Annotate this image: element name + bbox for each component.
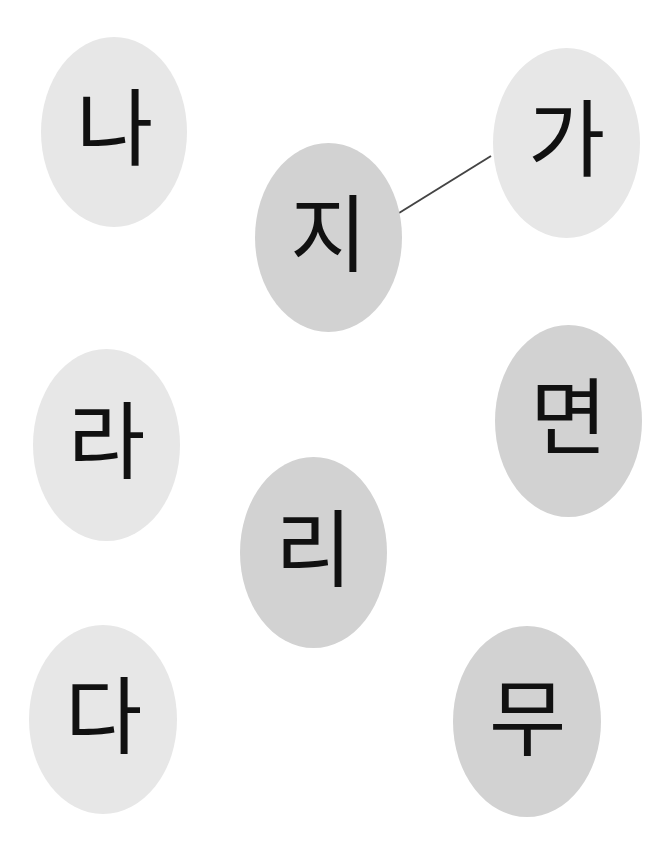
bubble-ji[interactable]: 지 <box>255 143 402 332</box>
syllable-label: 지 <box>290 194 367 278</box>
syllable-label: 무 <box>489 678 566 762</box>
syllable-label: 나 <box>76 88 153 172</box>
connector-line-ji-ga <box>399 156 491 213</box>
bubble-ga[interactable]: 가 <box>493 48 640 238</box>
syllable-label: 라 <box>68 401 145 485</box>
bubble-mu[interactable]: 무 <box>453 626 601 817</box>
bubble-ri[interactable]: 리 <box>240 457 387 648</box>
bubble-da[interactable]: 다 <box>29 625 177 814</box>
syllable-label: 다 <box>65 676 142 760</box>
bubble-na[interactable]: 나 <box>41 37 187 227</box>
syllable-label: 리 <box>275 509 352 593</box>
matching-canvas: 나 지 가 라 면 리 다 무 <box>0 0 667 846</box>
syllable-label: 면 <box>530 377 607 461</box>
bubble-myeon[interactable]: 면 <box>495 325 642 517</box>
bubble-ra[interactable]: 라 <box>33 349 180 541</box>
syllable-label: 가 <box>528 99 605 183</box>
